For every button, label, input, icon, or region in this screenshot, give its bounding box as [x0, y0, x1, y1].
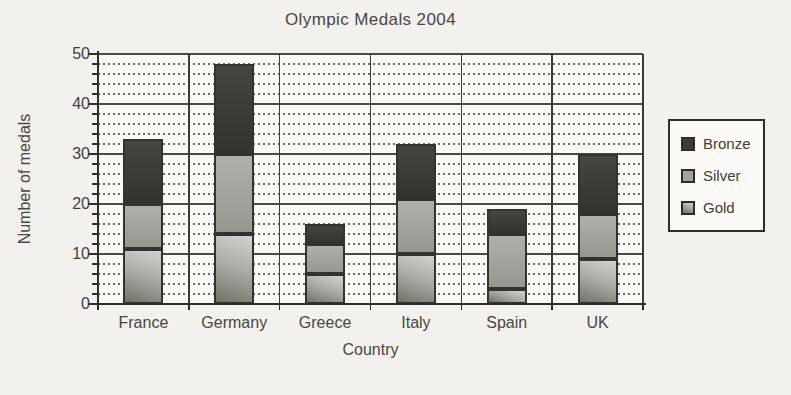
y-minor-tick — [92, 283, 97, 285]
bar-germany-silver-segment — [214, 154, 254, 234]
bar-greece-bronze-segment — [305, 224, 345, 244]
y-axis-title: Number of medals — [16, 99, 34, 259]
x-axis-title: Country — [98, 341, 643, 359]
y-tick-label: 30 — [50, 145, 90, 163]
y-minor-tick — [92, 163, 97, 165]
category-separator-line — [461, 54, 463, 304]
y-minor-tick — [92, 263, 97, 265]
bar-spain-silver-segment — [487, 234, 527, 289]
silver-swatch — [681, 169, 695, 183]
x-tick — [97, 304, 99, 310]
category-label-uk: UK — [552, 314, 643, 332]
x-tick — [188, 304, 190, 310]
category-separator-line — [279, 54, 281, 304]
gold-swatch — [681, 201, 695, 215]
y-tick-label: 0 — [50, 295, 90, 313]
category-label-italy: Italy — [371, 314, 462, 332]
category-separator-line — [551, 54, 553, 304]
y-minor-tick — [92, 233, 97, 235]
legend-item-silver: Silver — [681, 167, 763, 184]
x-tick — [370, 304, 372, 310]
y-minor-tick — [92, 243, 97, 245]
y-tick-label: 40 — [50, 95, 90, 113]
category-label-germany: Germany — [189, 314, 280, 332]
category-label-spain: Spain — [461, 314, 552, 332]
y-minor-tick — [92, 173, 97, 175]
y-minor-tick — [92, 223, 97, 225]
category-separator-line — [188, 54, 190, 304]
y-minor-tick — [92, 133, 97, 135]
y-minor-tick — [92, 113, 97, 115]
y-minor-tick — [92, 213, 97, 215]
bar-germany-bronze-segment — [214, 64, 254, 154]
bar-uk-gold-segment — [578, 259, 618, 304]
bar-greece-silver-segment — [305, 244, 345, 274]
y-minor-tick — [92, 83, 97, 85]
legend-label-bronze: Bronze — [703, 135, 751, 152]
legend-item-gold: Gold — [681, 199, 763, 216]
y-minor-tick — [92, 73, 97, 75]
bar-germany-gold-segment — [214, 234, 254, 304]
y-minor-tick — [92, 143, 97, 145]
bar-spain-bronze-segment — [487, 209, 527, 234]
legend-label-silver: Silver — [703, 167, 741, 184]
y-minor-tick — [92, 293, 97, 295]
plot-area — [98, 54, 643, 304]
category-separator-line — [642, 54, 644, 304]
bar-france-gold-segment — [123, 249, 163, 304]
category-separator-line — [370, 54, 372, 304]
x-tick — [279, 304, 281, 310]
chart-title: Olympic Medals 2004 — [98, 10, 643, 30]
bar-france-bronze-segment — [123, 139, 163, 204]
y-minor-tick — [92, 123, 97, 125]
bar-italy-bronze-segment — [396, 144, 436, 199]
y-minor-tick — [92, 273, 97, 275]
x-tick — [551, 304, 553, 310]
bar-greece-gold-segment — [305, 274, 345, 304]
x-tick — [642, 304, 644, 310]
y-axis-line — [97, 51, 99, 305]
category-label-greece: Greece — [280, 314, 371, 332]
bar-france-silver-segment — [123, 204, 163, 249]
bar-uk-bronze-segment — [578, 154, 618, 214]
y-minor-tick — [92, 193, 97, 195]
y-tick-label: 10 — [50, 245, 90, 263]
y-tick-label: 20 — [50, 195, 90, 213]
bar-italy-gold-segment — [396, 254, 436, 304]
legend: Bronze Silver Gold — [668, 119, 765, 232]
bar-italy-silver-segment — [396, 199, 436, 254]
x-tick — [461, 304, 463, 310]
y-tick-label: 50 — [50, 45, 90, 63]
bronze-swatch — [681, 137, 695, 151]
legend-item-bronze: Bronze — [681, 135, 763, 152]
bar-uk-silver-segment — [578, 214, 618, 259]
legend-label-gold: Gold — [703, 199, 735, 216]
y-minor-tick — [92, 183, 97, 185]
y-minor-tick — [92, 93, 97, 95]
category-label-france: France — [98, 314, 189, 332]
scanned-chart-page: Olympic Medals 2004 Number of medals 010… — [0, 0, 791, 395]
y-minor-tick — [92, 63, 97, 65]
